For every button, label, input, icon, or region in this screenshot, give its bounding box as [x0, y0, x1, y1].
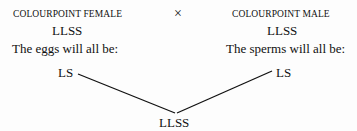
cross-lines — [0, 0, 357, 131]
offspring-genotype: LLSS — [159, 115, 189, 131]
female-gamete-connector — [78, 74, 175, 113]
male-gamete-connector — [177, 71, 272, 113]
